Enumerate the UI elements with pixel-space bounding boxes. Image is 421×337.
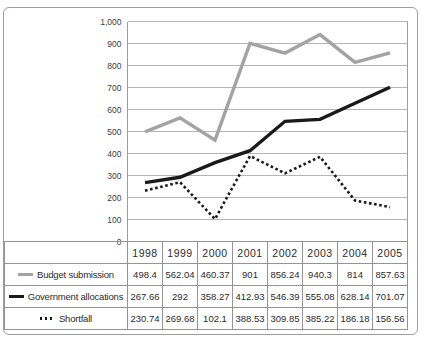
value-cell: 292 (163, 286, 198, 308)
year-header: 2004 (338, 242, 373, 264)
value-cell: 460.37 (198, 264, 233, 286)
svg-text:200: 200 (107, 193, 121, 203)
value-cell: 940.3 (303, 264, 338, 286)
value-cell: 385.22 (303, 308, 338, 330)
year-header: 2003 (303, 242, 338, 264)
value-cell: 498.4 (128, 264, 163, 286)
value-cell: 701.07 (373, 286, 408, 308)
value-cell: 628.14 (338, 286, 373, 308)
value-cell: 562.04 (163, 264, 198, 286)
table-corner-cell (5, 242, 128, 264)
budget-submission-row: Budget submission 498.4 562.04 460.37 90… (5, 264, 408, 286)
year-header-row: 1998 1999 2000 2001 2002 2003 2004 2005 (5, 242, 408, 264)
value-cell: 555.08 (303, 286, 338, 308)
legend-cell-government-allocations: Government allocations (5, 286, 128, 308)
budget-submission-line-swatch (18, 273, 33, 276)
value-cell: 546.39 (268, 286, 303, 308)
value-cell: 901 (233, 264, 268, 286)
year-header: 1998 (128, 242, 163, 264)
svg-text:100: 100 (107, 215, 121, 225)
value-cell: 156.56 (373, 308, 408, 330)
value-cell: 388.53 (233, 308, 268, 330)
series-label: Shortfall (59, 313, 92, 324)
legend-cell-shortfall: Shortfall (5, 308, 128, 330)
svg-text:900: 900 (107, 39, 121, 49)
svg-text:600: 600 (107, 105, 121, 115)
svg-text:1,000: 1,000 (100, 17, 122, 27)
line-chart-plot-area: 01002003004005006007008009001,000 (0, 0, 421, 250)
svg-text:700: 700 (107, 83, 121, 93)
series-label: Budget submission (37, 269, 114, 280)
svg-text:800: 800 (107, 61, 121, 71)
value-cell: 186.18 (338, 308, 373, 330)
government-allocations-row: Government allocations 267.66 292 358.27… (5, 286, 408, 308)
chart-figure: 01002003004005006007008009001,000 1998 1… (0, 0, 421, 337)
government-allocations-line-swatch (9, 295, 24, 298)
value-cell: 857.63 (373, 264, 408, 286)
value-cell: 267.66 (128, 286, 163, 308)
value-cell: 309.85 (268, 308, 303, 330)
legend-cell-budget-submission: Budget submission (5, 264, 128, 286)
series-label: Government allocations (28, 291, 123, 302)
shortfall-dotted-line-swatch (40, 317, 55, 320)
data-table: 1998 1999 2000 2001 2002 2003 2004 2005 … (4, 241, 408, 330)
year-header: 2002 (268, 242, 303, 264)
year-header: 2000 (198, 242, 233, 264)
year-header: 1999 (163, 242, 198, 264)
year-header: 2001 (233, 242, 268, 264)
value-cell: 412.93 (233, 286, 268, 308)
value-cell: 230.74 (128, 308, 163, 330)
svg-text:300: 300 (107, 171, 121, 181)
shortfall-row: Shortfall 230.74 269.68 102.1 388.53 309… (5, 308, 408, 330)
value-cell: 814 (338, 264, 373, 286)
year-header: 2005 (373, 242, 408, 264)
value-cell: 102.1 (198, 308, 233, 330)
svg-text:400: 400 (107, 149, 121, 159)
value-cell: 358.27 (198, 286, 233, 308)
value-cell: 269.68 (163, 308, 198, 330)
value-cell: 856.24 (268, 264, 303, 286)
svg-text:500: 500 (107, 127, 121, 137)
